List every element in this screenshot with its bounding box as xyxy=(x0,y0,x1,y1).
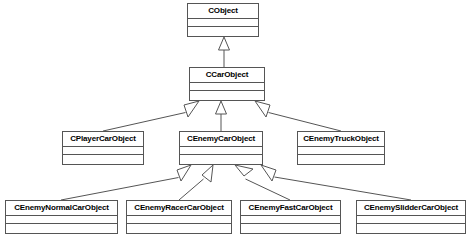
class-name-ccarobject: CCarObject xyxy=(190,68,264,83)
edge-cenemyslidercarobject-to-cenemycarobject xyxy=(261,165,411,200)
class-name-cobject: CObject xyxy=(188,4,258,19)
class-name-cenemyfastcarobject: CEnemyFastCarObject xyxy=(241,201,340,216)
class-box-cenemynormalcarobject[interactable]: CEnemyNormalCarObject xyxy=(5,200,118,234)
class-box-cobject[interactable]: CObject xyxy=(187,3,259,37)
class-attributes-cenemyracercarobject xyxy=(127,216,231,224)
edge-cenemyfastcarobject-to-cenemycarobject xyxy=(235,165,290,200)
class-operations-cenemytruckobject xyxy=(298,155,384,164)
class-name-cplayercarobject: CPlayerCarObject xyxy=(63,132,143,147)
class-operations-cenemycarobject xyxy=(180,155,262,164)
class-box-cenemycarobject[interactable]: CEnemyCarObject xyxy=(179,131,263,165)
class-operations-cenemyfastcarobject xyxy=(241,224,340,233)
uml-class-diagram: CObject CCarObject CPlayerCarObject CEne… xyxy=(0,0,470,240)
class-attributes-cenemyslidercarobject xyxy=(357,216,465,224)
class-name-cenemynormalcarobject: CEnemyNormalCarObject xyxy=(6,201,117,216)
class-operations-cenemyslidercarobject xyxy=(357,224,465,233)
class-attributes-ccarobject xyxy=(190,83,264,91)
class-attributes-cenemyfastcarobject xyxy=(241,216,340,224)
edge-ccarobject-to-cobject xyxy=(219,37,230,67)
class-attributes-cplayercarobject xyxy=(63,147,143,155)
class-attributes-cenemynormalcarobject xyxy=(6,216,117,224)
edge-cplayercarobject-to-ccarobject xyxy=(103,101,199,131)
class-box-cenemytruckobject[interactable]: CEnemyTruckObject xyxy=(297,131,385,165)
class-box-ccarobject[interactable]: CCarObject xyxy=(189,67,265,101)
class-operations-cplayercarobject xyxy=(63,155,143,164)
edge-cenemynormalcarobject-to-cenemycarobject xyxy=(61,165,191,200)
class-name-cenemyslidercarobject: CEnemySlidderCarObject xyxy=(357,201,465,216)
class-operations-cobject xyxy=(188,27,258,36)
class-name-cenemyracercarobject: CEnemyRacerCarObject xyxy=(127,201,231,216)
class-attributes-cobject xyxy=(188,19,258,27)
class-box-cenemyslidercarobject[interactable]: CEnemySlidderCarObject xyxy=(356,200,466,234)
class-box-cenemyracercarobject[interactable]: CEnemyRacerCarObject xyxy=(126,200,232,234)
class-attributes-cenemytruckobject xyxy=(298,147,384,155)
class-operations-cenemyracercarobject xyxy=(127,224,231,233)
class-operations-cenemynormalcarobject xyxy=(6,224,117,233)
class-name-cenemycarobject: CEnemyCarObject xyxy=(180,132,262,147)
class-attributes-cenemycarobject xyxy=(180,147,262,155)
class-name-cenemytruckobject: CEnemyTruckObject xyxy=(298,132,384,147)
class-operations-ccarobject xyxy=(190,91,264,100)
edge-cenemycarobject-to-ccarobject xyxy=(216,101,227,131)
class-box-cplayercarobject[interactable]: CPlayerCarObject xyxy=(62,131,144,165)
edge-cenemytruckobject-to-ccarobject xyxy=(255,101,341,131)
class-box-cenemyfastcarobject[interactable]: CEnemyFastCarObject xyxy=(240,200,341,234)
